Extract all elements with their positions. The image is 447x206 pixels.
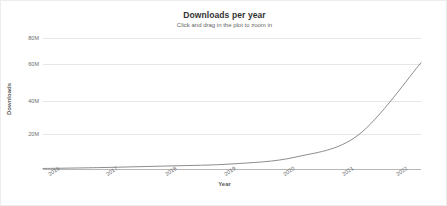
gridline xyxy=(43,38,421,39)
x-axis-title: Year xyxy=(1,181,447,187)
chart-page: Downloads per year Click and drag in the… xyxy=(0,0,447,206)
y-axis-tick-label: 40M xyxy=(3,98,39,104)
y-axis-tick-label: 60M xyxy=(3,61,39,67)
chart-subtitle: Click and drag in the plot to zoom in xyxy=(1,22,447,28)
gridline xyxy=(43,64,421,65)
y-axis-tick-label: 80M xyxy=(3,35,39,41)
gridline xyxy=(43,134,421,135)
plot-area[interactable]: 80M 60M 40M 20M xyxy=(43,34,421,169)
gridline xyxy=(43,101,421,102)
chart-title: Downloads per year xyxy=(1,10,447,20)
y-axis-tick-label: 20M xyxy=(3,131,39,137)
